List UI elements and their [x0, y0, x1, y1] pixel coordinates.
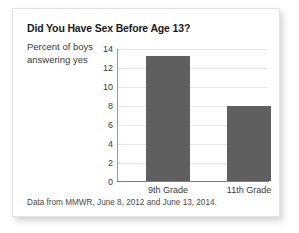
y-tick-label: 0: [89, 178, 113, 187]
y-axis-line: [117, 49, 118, 182]
bar-9th-grade: [146, 56, 190, 181]
x-axis-line: [117, 181, 269, 182]
y-tick-label: 4: [89, 140, 113, 149]
y-tick-label: 6: [89, 121, 113, 130]
figure-card: Did You Have Sex Before Age 13? Percent …: [12, 8, 280, 217]
bar-11th-grade: [227, 106, 271, 181]
x-tick-label: 11th Grade: [210, 185, 288, 195]
y-axis-tick-labels: 14 12 10 8 6 4 2 0: [87, 49, 113, 182]
x-axis-tick-labels: 9th Grade 11th Grade: [117, 185, 271, 199]
chart-title: Did You Have Sex Before Age 13?: [27, 22, 190, 34]
y-tick-label: 12: [89, 64, 113, 73]
x-tick-label: 9th Grade: [129, 185, 207, 195]
y-tick-label: 14: [89, 45, 113, 54]
y-tick-label: 10: [89, 83, 113, 92]
gridline: [117, 87, 267, 88]
y-tick-label: 8: [89, 102, 113, 111]
source-note: Data from MMWR, June 8, 2012 and June 13…: [27, 198, 217, 207]
y-tick-label: 2: [89, 159, 113, 168]
gridline: [117, 68, 267, 69]
plot-area: [117, 49, 267, 181]
gridline: [117, 49, 267, 50]
